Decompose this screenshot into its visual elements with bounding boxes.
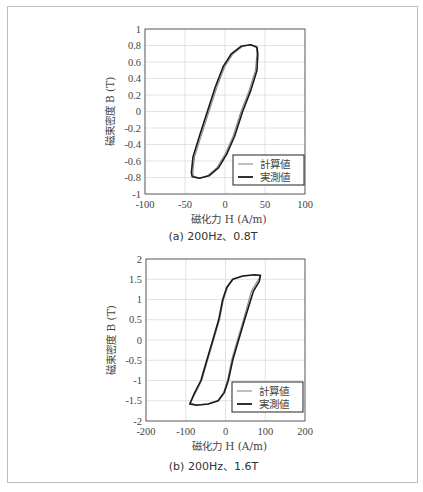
y-axis-label: 磁束密度 B (T) bbox=[105, 305, 117, 375]
y-tick-label: 0 bbox=[136, 106, 141, 117]
legend: 計算値実測値 bbox=[233, 155, 304, 185]
y-tick-label: -2 bbox=[133, 416, 142, 427]
y-tick-label: 2 bbox=[137, 254, 142, 265]
y-tick-label: 0.6 bbox=[128, 57, 141, 68]
legend-label: 実測値 bbox=[260, 171, 291, 183]
y-tick-label: -0.4 bbox=[124, 139, 141, 150]
y-tick-label: 1 bbox=[136, 24, 141, 35]
y-tick-label: -0.6 bbox=[124, 156, 141, 167]
x-tick-label: -50 bbox=[178, 199, 192, 210]
x-tick-label: 200 bbox=[297, 426, 313, 437]
y-tick-label: 0.4 bbox=[128, 73, 142, 84]
y-tick-label: 0 bbox=[137, 335, 142, 346]
y-tick-label: -0.8 bbox=[124, 172, 141, 183]
y-axis-label: 磁束密度 B (T) bbox=[104, 77, 116, 147]
x-tick-label: 0 bbox=[222, 199, 227, 210]
chart-caption: (a) 200Hz、0.8T bbox=[168, 230, 257, 243]
y-tick-label: 1.5 bbox=[129, 274, 142, 285]
y-tick-label: -1.5 bbox=[125, 395, 142, 406]
x-tick-label: -100 bbox=[176, 426, 195, 437]
y-tick-label: -1 bbox=[133, 375, 142, 386]
y-tick-label: 1 bbox=[137, 294, 142, 305]
chart-caption: (b) 200Hz、1.6T bbox=[169, 460, 259, 473]
y-tick-label: -0.2 bbox=[124, 123, 141, 134]
chart-b: -200-100010020021.510.50-0.5-1-1.5-2磁化力 … bbox=[105, 254, 313, 474]
legend-label: 計算値 bbox=[259, 385, 290, 397]
legend: 計算値実測値 bbox=[232, 382, 303, 412]
x-tick-label: -200 bbox=[136, 426, 155, 437]
figure-canvas: -100-5005010010.80.60.40.20-0.2-0.4-0.6-… bbox=[0, 0, 423, 492]
x-axis-label: 磁化力 H (A/m) bbox=[191, 213, 266, 225]
x-tick-label: -100 bbox=[135, 199, 154, 210]
x-tick-label: 100 bbox=[257, 426, 273, 437]
y-tick-label: 0.2 bbox=[128, 90, 141, 101]
x-tick-label: 100 bbox=[297, 199, 313, 210]
y-tick-label: -1 bbox=[132, 189, 141, 200]
legend-label: 実測値 bbox=[259, 398, 290, 410]
x-tick-label: 0 bbox=[223, 426, 228, 437]
y-tick-label: 0.5 bbox=[129, 314, 142, 325]
y-tick-label: -0.5 bbox=[125, 355, 142, 366]
x-tick-label: 50 bbox=[260, 199, 271, 210]
y-tick-label: 0.8 bbox=[128, 40, 141, 51]
legend-label: 計算値 bbox=[260, 158, 291, 170]
chart-a: -100-5005010010.80.60.40.20-0.2-0.4-0.6-… bbox=[104, 24, 313, 244]
x-axis-label: 磁化力 H (A/m) bbox=[192, 440, 267, 452]
